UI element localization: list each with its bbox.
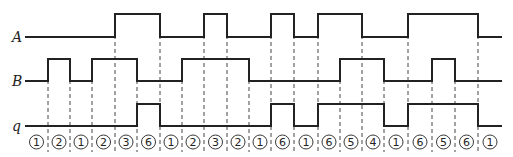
state-label: 2 [190, 136, 197, 149]
signal-A-waveform [25, 14, 502, 37]
signal-label-A: A [10, 29, 22, 45]
signal-label-B: B [11, 73, 22, 89]
state-label: 5 [440, 136, 447, 149]
state-label: 3 [212, 136, 219, 149]
state-label: 6 [279, 136, 286, 149]
signal-label-q: q [12, 118, 21, 134]
state-label: 1 [257, 136, 264, 149]
state-label: 1 [168, 136, 175, 149]
signal-q-waveform [25, 104, 502, 126]
signal-B-waveform [25, 59, 502, 81]
state-label: 1 [33, 136, 40, 149]
state-labels: 121236123216165416561 [30, 135, 498, 149]
timing-diagram: ABq 121236123216165416561 [0, 0, 513, 157]
state-boundary-lines [48, 14, 478, 152]
state-label: 3 [123, 136, 130, 149]
state-label: 1 [393, 136, 400, 149]
signal-labels: ABq [10, 29, 22, 134]
state-label: 2 [100, 136, 107, 149]
state-label: 2 [56, 136, 63, 149]
state-label: 6 [326, 136, 333, 149]
state-label: 6 [145, 136, 152, 149]
state-label: 2 [235, 136, 242, 149]
state-label: 6 [463, 136, 470, 149]
state-label: 5 [348, 136, 355, 149]
state-label: 4 [370, 136, 377, 149]
state-label: 6 [417, 136, 424, 149]
state-label: 1 [487, 136, 494, 149]
signal-waveforms [25, 14, 502, 126]
state-label: 1 [78, 136, 85, 149]
state-label: 1 [303, 136, 310, 149]
